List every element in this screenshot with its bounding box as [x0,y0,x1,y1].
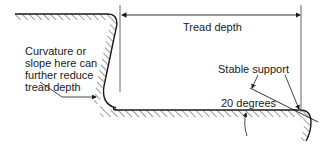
curvature-note-line-3: further reduce [25,69,120,81]
stable-support-label: Stable support [218,63,289,75]
curvature-note-line-1: Curvature or [25,45,120,57]
curvature-note-line-2: slope here can [25,57,120,69]
stable-support-leader-b [285,75,299,109]
angle-label: 20 degrees [221,97,276,109]
stable-support-leader-a [252,75,258,88]
curvature-note: Curvature or slope here can further redu… [25,45,120,93]
curvature-note-line-4: tread depth [25,81,120,93]
tread-depth-label: Tread depth [183,21,242,33]
